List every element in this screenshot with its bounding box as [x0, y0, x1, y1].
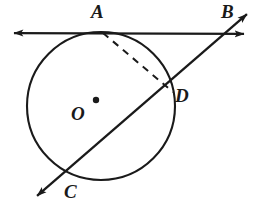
point-label-b: B: [221, 2, 234, 21]
point-label-o: O: [71, 104, 85, 123]
geometry-canvas: [0, 0, 257, 213]
tangent-line-AB: [14, 33, 244, 34]
center-point-dot: [93, 97, 99, 103]
point-label-c: C: [64, 182, 77, 201]
point-label-d: D: [175, 86, 189, 105]
geometry-figure: A B C D O: [0, 0, 257, 213]
point-label-a: A: [91, 2, 104, 21]
circle-O: [27, 32, 175, 180]
